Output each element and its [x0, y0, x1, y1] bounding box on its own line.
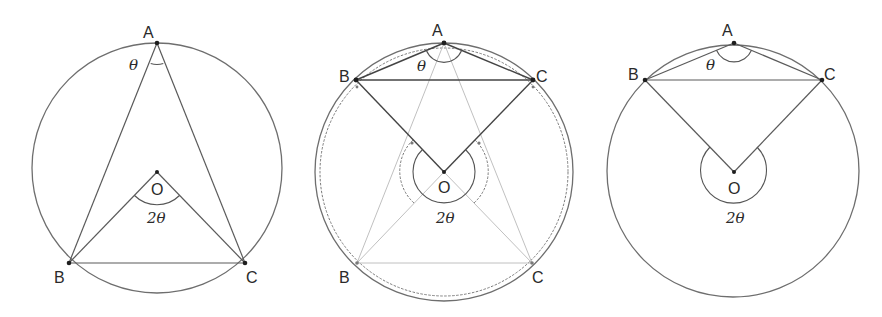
ghost-chord-ac: [444, 43, 532, 263]
point-o: [732, 170, 736, 174]
label-o: O: [728, 180, 740, 197]
label-2theta: 2θ: [146, 209, 166, 227]
label-b: B: [54, 269, 65, 286]
label-o: O: [151, 181, 163, 198]
radius-ob: [356, 80, 444, 172]
chord-ab: [69, 43, 157, 263]
inscribed-angle-arc: [717, 50, 752, 62]
inscribed-angle-theorem-figure: A B C O θ 2θ: [0, 0, 882, 317]
label-a: A: [432, 22, 443, 39]
chord-ac: [157, 43, 245, 263]
point-b-bottom: [355, 261, 359, 265]
ghost-radius-ob: [357, 172, 444, 263]
chord-ab: [356, 43, 444, 80]
radius-ob: [69, 172, 157, 263]
radius-oc: [444, 80, 533, 172]
label-b-bottom: B: [339, 269, 350, 286]
chord-ab: [645, 43, 734, 80]
point-o: [155, 170, 159, 174]
chord-ac: [734, 43, 822, 80]
label-c-bottom: C: [532, 269, 544, 286]
label-theta: θ: [706, 56, 715, 74]
point-b: [67, 261, 72, 266]
circumcircle: [32, 43, 282, 293]
label-theta: θ: [417, 57, 426, 75]
radius-oc: [734, 80, 822, 172]
panel-1-acute-case: A B C O θ 2θ: [32, 24, 282, 293]
marker-b-top: [356, 86, 359, 89]
inscribed-angle-arc: [151, 64, 164, 65]
ghost-chord-ab: [357, 43, 444, 263]
inscribed-angle-arc: [426, 51, 461, 63]
label-a: A: [143, 24, 154, 41]
point-c-bottom: [530, 261, 534, 265]
point-a: [442, 41, 447, 46]
label-c-top: C: [536, 68, 548, 85]
marker-right: [477, 141, 480, 144]
chord-ac: [444, 43, 533, 80]
radius-ob: [645, 80, 734, 172]
point-a: [732, 41, 737, 46]
marker-left: [410, 141, 413, 144]
point-o: [442, 170, 446, 174]
point-b-top: [354, 78, 359, 83]
label-2theta: 2θ: [435, 209, 455, 227]
point-c-top: [531, 78, 536, 83]
marker-c-top: [532, 86, 535, 89]
label-c: C: [246, 269, 258, 286]
ghost-radius-oc: [444, 172, 532, 263]
label-o: O: [438, 179, 450, 196]
radius-oc: [157, 172, 245, 263]
point-c: [243, 261, 248, 266]
label-c: C: [824, 66, 836, 83]
point-a: [155, 41, 160, 46]
label-b: B: [628, 66, 639, 83]
label-b-top: B: [339, 68, 350, 85]
label-2theta: 2θ: [725, 209, 745, 227]
panel-3-reflex-case: A B C O θ 2θ: [607, 22, 859, 297]
label-theta: θ: [129, 56, 138, 74]
point-b: [643, 78, 648, 83]
panel-2-transition-case: A B C B C O θ 2θ: [315, 22, 573, 301]
label-a: A: [722, 22, 733, 39]
